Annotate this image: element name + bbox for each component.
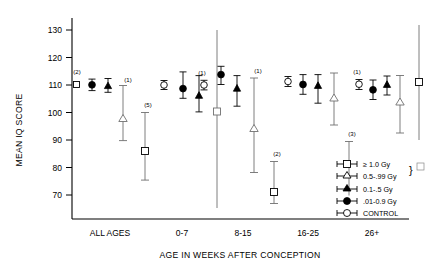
group-26-plus: (1) — [353, 25, 422, 140]
x-axis-title: AGE IN WEEKS AFTER CONCEPTION — [159, 250, 320, 260]
legend-item-ge-1-0-gy[interactable]: ≥ 1.0 Gy — [337, 160, 391, 169]
marker-open-triangle — [250, 125, 258, 132]
y-axis-ticks — [66, 30, 72, 195]
iq-score-error-bar-chart: 130 120 110 100 90 80 70 MEAN IQ SCORE A… — [0, 0, 435, 273]
marker-open-triangle — [330, 94, 338, 101]
y-tick-label-130: 130 — [48, 25, 62, 35]
count-label-2: (2) — [73, 69, 80, 75]
marker-filled-triangle — [314, 82, 321, 89]
legend-side-marker — [417, 163, 424, 170]
count-label-3: (3) — [348, 131, 355, 137]
legend-marker-filled-circle — [344, 198, 351, 205]
marker-filled-circle — [180, 85, 187, 92]
legend-marker-filled-triangle — [343, 185, 351, 192]
marker-open-triangle — [396, 98, 404, 105]
marker-open-square — [271, 189, 278, 196]
marker-open-square — [142, 148, 149, 155]
y-tick-label-90: 90 — [53, 135, 63, 145]
marker-filled-triangle — [383, 81, 390, 88]
legend-label-control: CONTROL — [363, 209, 398, 218]
count-label-2: (2) — [273, 151, 280, 157]
y-tick-label-110: 110 — [48, 80, 62, 90]
legend-label-ge-1-0-gy: ≥ 1.0 Gy — [363, 160, 391, 169]
marker-filled-triangle — [195, 92, 202, 99]
count-label-1: (1) — [198, 70, 205, 76]
marker-filled-circle — [370, 86, 377, 93]
x-tick-label-16-25: 16-25 — [297, 228, 319, 238]
legend-label-0-5-99-gy: 0.5-.99 Gy — [363, 172, 397, 181]
y-tick-label-70: 70 — [53, 190, 63, 200]
y-tick-label-100: 100 — [48, 108, 62, 118]
y-axis-title: MEAN IQ SCORE — [14, 93, 24, 166]
y-tick-label-120: 120 — [48, 53, 62, 63]
legend-item-0-1-5-gy[interactable]: 0.1-.5 Gy — [337, 185, 393, 195]
marker-filled-circle — [89, 81, 96, 88]
x-tick-label-26-plus: 26+ — [365, 228, 379, 238]
count-label-1: (1) — [353, 69, 360, 75]
marker-open-circle — [201, 82, 208, 89]
legend-marker-open-circle — [344, 210, 351, 217]
marker-filled-circle — [300, 81, 307, 88]
marker-open-triangle — [119, 115, 127, 122]
legend-brace: } — [409, 164, 413, 176]
x-tick-label-0-7: 0-7 — [176, 228, 189, 238]
marker-filled-triangle — [233, 85, 240, 92]
legend-item-0-5-99-gy[interactable]: 0.5-.99 Gy — [337, 172, 397, 182]
x-tick-label-all-ages: ALL AGES — [90, 228, 131, 238]
group-all-ages: (2) (1) (5) — [73, 69, 151, 180]
marker-open-circle — [356, 81, 363, 88]
legend-marker-open-triangle — [343, 172, 351, 179]
legend-item-control[interactable]: CONTROL — [337, 209, 398, 218]
count-label-5: (5) — [144, 102, 151, 108]
marker-open-square — [416, 79, 423, 86]
marker-open-circle — [285, 78, 292, 85]
chart-legend: ≥ 1.0 Gy 0.5-.99 Gy 0.1-.5 Gy .01-0.9 Gy — [337, 160, 424, 218]
legend-label-01-0-9-gy: .01-0.9 Gy — [363, 197, 397, 206]
marker-open-square — [74, 82, 80, 88]
chart-container: 130 120 110 100 90 80 70 MEAN IQ SCORE A… — [0, 0, 435, 273]
marker-open-circle — [161, 82, 168, 89]
group-0-7 — [161, 30, 221, 208]
marker-filled-triangle — [104, 82, 111, 88]
legend-item-01-0-9-gy[interactable]: .01-0.9 Gy — [337, 197, 397, 206]
legend-label-0-1-5-gy: 0.1-.5 Gy — [363, 185, 393, 194]
group-8-15: (1) (1) (2) — [198, 66, 280, 203]
count-label-1: (1) — [254, 68, 261, 74]
x-tick-label-8-15: 8-15 — [234, 228, 251, 238]
count-label-1: (1) — [124, 77, 131, 83]
y-tick-label-80: 80 — [53, 163, 63, 173]
marker-open-square — [214, 108, 221, 115]
marker-filled-circle — [218, 71, 225, 78]
legend-marker-open-square — [344, 161, 351, 168]
